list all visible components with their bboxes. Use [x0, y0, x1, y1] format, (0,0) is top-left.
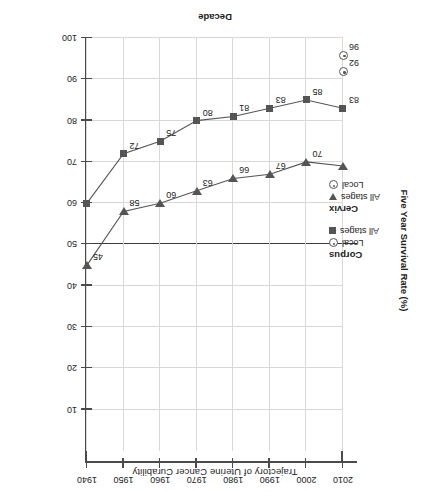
axis-corner — [341, 451, 343, 463]
x-axis-tick — [268, 458, 269, 468]
y-axis-tick-label: 40 — [51, 281, 77, 290]
x-axis-tick-label: 1980 — [213, 475, 253, 485]
legend-entry-label: All stages — [341, 192, 380, 202]
data-point-marker — [339, 67, 348, 76]
data-point-marker — [265, 170, 275, 178]
data-point-label: 92 — [349, 58, 359, 67]
y-axis-tick-label: 30 — [51, 322, 77, 331]
data-point-label: 60 — [166, 190, 176, 199]
data-point-marker — [339, 51, 348, 60]
legend-entry[interactable]: All stages — [329, 225, 415, 237]
data-point-label: 66 — [239, 165, 249, 174]
data-point-marker — [228, 174, 238, 182]
data-point-marker — [82, 261, 92, 269]
y-axis-tick-label: 20 — [51, 363, 77, 372]
x-axis-tick-label: 2000 — [286, 475, 326, 485]
x-axis-tick — [232, 458, 233, 468]
y-axis-tick-label: 50 — [51, 240, 77, 249]
x-axis-line — [86, 461, 357, 463]
legend-entry-label: Local — [342, 180, 364, 190]
data-point-label: 83 — [349, 95, 359, 104]
data-point-marker — [119, 207, 129, 215]
y-axis-tick-label: 10 — [51, 405, 77, 414]
legend-entry[interactable]: Local — [329, 237, 415, 249]
data-point-label: 67 — [276, 161, 286, 170]
legend-entry[interactable]: Local — [329, 179, 415, 191]
plot-area: 1020304050607080901001940195019601970198… — [87, 38, 343, 451]
data-point-label: 70 — [312, 149, 322, 158]
y-axis-tick-label: 60 — [51, 198, 77, 207]
legend-entry-label: All stages — [340, 226, 379, 236]
data-point-label: 96 — [349, 42, 359, 51]
x-axis-tick-label: 1950 — [104, 475, 144, 485]
chart-figure: Trajectory of Uterine Cancer Curability … — [0, 0, 430, 492]
y-axis-tick-label: 80 — [51, 116, 77, 125]
x-axis-tick — [159, 458, 160, 468]
chart-legend: CorpusLocalAll stagesCervixAll stagesLoc… — [329, 169, 415, 261]
legend-group-cervix: CervixAll stagesLocal — [329, 179, 415, 215]
legend-group-title: Corpus — [329, 250, 415, 261]
data-point-marker — [192, 187, 202, 195]
x-axis-tick-label: 1990 — [250, 475, 290, 485]
data-point-label: 45 — [93, 252, 103, 261]
circle-dot-icon — [329, 239, 338, 248]
x-axis-tick — [305, 458, 306, 468]
legend-group-title: Cervix — [329, 204, 415, 215]
y-axis-tick-label: 100 — [51, 33, 77, 42]
x-axis-tick-label: 1940 — [67, 475, 107, 485]
data-point-marker — [155, 199, 165, 207]
triangle-down-icon — [329, 194, 337, 201]
x-axis-tick-label: 2010 — [323, 475, 363, 485]
x-axis-tick — [195, 458, 196, 468]
data-point-label: 58 — [130, 198, 140, 207]
y-axis-tick-label: 90 — [51, 74, 77, 83]
series-line-cervix-all-stages — [87, 38, 343, 451]
legend-group-corpus: CorpusLocalAll stages — [329, 225, 415, 261]
x-axis-tick — [86, 458, 87, 468]
y-axis-tick-label: 70 — [51, 157, 77, 166]
square-icon — [329, 228, 336, 235]
legend-entry[interactable]: All stages — [329, 191, 415, 203]
legend-entry-label: Local — [342, 238, 364, 248]
data-point-marker — [301, 158, 311, 166]
x-axis-tick — [122, 458, 123, 468]
x-axis-tick-label: 1970 — [177, 475, 217, 485]
x-axis-tick-label: 1960 — [140, 475, 180, 485]
data-point-label: 63 — [203, 178, 213, 187]
circle-dot-icon — [329, 181, 338, 190]
x-axis-title: Decade — [0, 12, 430, 23]
